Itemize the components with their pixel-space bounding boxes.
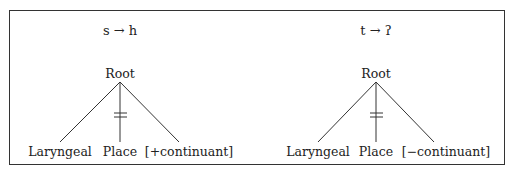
- laryngeal-node: Laryngeal: [28, 145, 92, 159]
- root-node: Root: [105, 67, 135, 81]
- continuant-node: [+continuant]: [145, 145, 233, 159]
- continuant-node: [−continuant]: [402, 145, 490, 159]
- right-tree-branches: [318, 82, 434, 142]
- place-node: Place: [359, 145, 393, 159]
- laryngeal-node: Laryngeal: [286, 145, 350, 159]
- rule-t-to-glottal: t → ʔ: [360, 24, 391, 38]
- root-node: Root: [361, 67, 391, 81]
- rule-s-to-h: s → h: [103, 24, 137, 38]
- place-node: Place: [103, 145, 137, 159]
- left-tree-branches: [60, 82, 179, 142]
